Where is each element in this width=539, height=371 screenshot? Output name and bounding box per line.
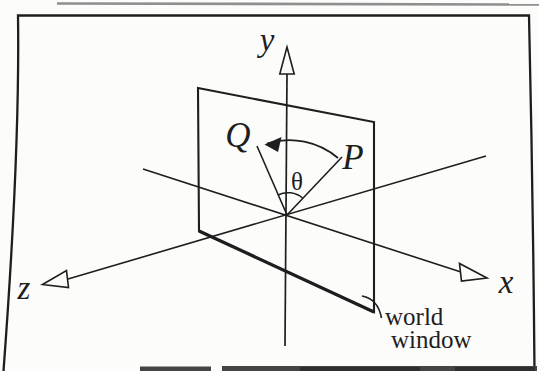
theta-label: θ — [291, 168, 303, 195]
y-axis-label: y — [257, 22, 275, 58]
x-axis-label: x — [498, 264, 514, 300]
figure-canvas: y x z P Q θ world window — [0, 0, 539, 371]
y-axis-arrowhead — [280, 47, 294, 74]
z-axis-arrowhead — [43, 271, 69, 288]
world-window-label-line2: window — [385, 328, 472, 351]
scan-artifact-top-line — [57, 4, 539, 5]
z-axis-label: z — [17, 270, 31, 306]
point-q-label: Q — [225, 116, 250, 155]
point-p-label: P — [341, 138, 363, 177]
x-axis-arrowhead — [460, 264, 488, 282]
rotation-arc-arrowhead — [265, 137, 282, 152]
caption-cutoff-band — [140, 366, 537, 371]
q-segment — [257, 146, 287, 215]
world-window-label: world window — [385, 305, 472, 351]
